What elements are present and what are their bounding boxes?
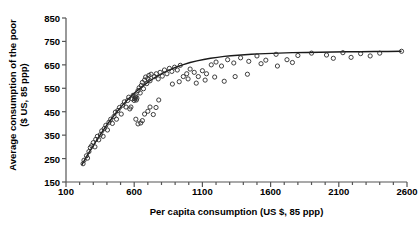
scatter-points [81,49,404,166]
tick-marks [62,18,407,187]
scatter-chart: Average consumption of the poor ($ US, 8… [0,0,419,227]
x-axis-label: Per capita consumption (US $, 85 ppp) [66,206,407,217]
axis-lines [66,18,407,182]
plot-area [0,0,419,227]
